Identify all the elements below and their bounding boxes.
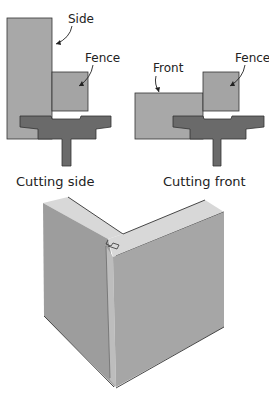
router-table-left xyxy=(20,116,111,166)
arrow-side xyxy=(56,26,72,44)
panel-cutting-side: Side Fence Cutting side xyxy=(7,12,120,189)
label-fence-left: Fence xyxy=(85,51,120,65)
panel-cutting-front: Front Fence Cutting front xyxy=(135,51,269,189)
router-table-right xyxy=(173,116,264,166)
fence-left xyxy=(52,72,88,111)
label-side: Side xyxy=(68,12,94,26)
caption-cutting-side: Cutting side xyxy=(16,174,94,189)
fence-right xyxy=(203,72,239,111)
joint-diagram: Side Fence Cutting side Front Fence Cutt… xyxy=(0,0,269,395)
label-fence-right: Fence xyxy=(235,51,269,65)
caption-cutting-front: Cutting front xyxy=(163,174,246,189)
label-front: Front xyxy=(153,61,184,75)
panel-assembled-corner xyxy=(43,197,224,388)
